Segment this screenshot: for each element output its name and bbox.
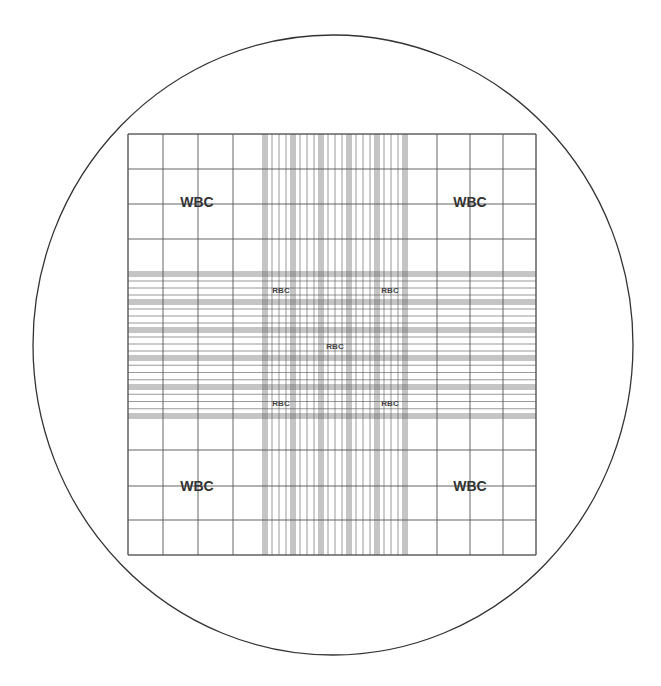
hemocytometer-diagram: WBC WBC WBC WBC RBC RBC RBC RBC RBC: [0, 0, 661, 686]
rbc-label-bottom-left: RBC: [272, 399, 290, 408]
wbc-label-bottom-right: WBC: [453, 478, 486, 494]
wbc-label-top-right: WBC: [453, 194, 486, 210]
rbc-label-top-right: RBC: [381, 286, 399, 295]
rbc-label-center: RBC: [326, 342, 344, 351]
rbc-label-bottom-right: RBC: [381, 399, 399, 408]
diagram-canvas: WBC WBC WBC WBC RBC RBC RBC RBC RBC: [0, 0, 661, 686]
wbc-label-top-left: WBC: [180, 194, 213, 210]
rbc-label-top-left: RBC: [272, 286, 290, 295]
wbc-label-bottom-left: WBC: [180, 478, 213, 494]
